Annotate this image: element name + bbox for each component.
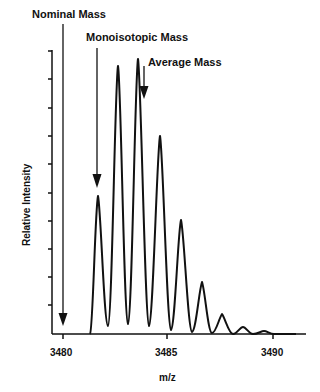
x-tick-3480: 3480 — [50, 347, 72, 358]
x-axis-label: m/z — [159, 372, 176, 383]
x-tick-3490: 3490 — [261, 347, 283, 358]
monoisotopic-mass-label: Monoisotopic Mass — [86, 31, 188, 43]
x-tick-3485: 3485 — [155, 347, 177, 358]
average-mass-label: Average Mass — [148, 56, 222, 68]
monoisotopic-mass-arrow — [93, 48, 102, 188]
y-axis-label: Relative Intensity — [21, 164, 32, 246]
nominal-mass-label: Nominal Mass — [32, 8, 106, 20]
spectrum-trace — [90, 59, 296, 334]
nominal-mass-arrow — [59, 24, 68, 326]
